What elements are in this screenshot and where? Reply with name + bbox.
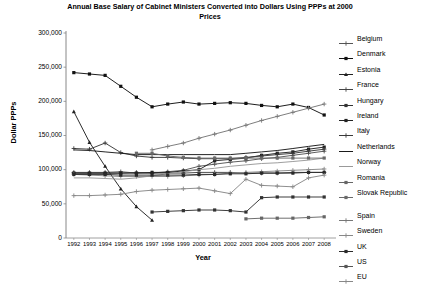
square-marker-icon	[338, 112, 354, 123]
legend-label: EU	[357, 272, 367, 281]
legend-label: Hungary	[357, 96, 383, 105]
legend-item-denmark[interactable]: Denmark	[338, 49, 446, 64]
chart-legend: BelgiumDenmarkEstoniaFranceHungaryIrelan…	[338, 34, 446, 288]
plus-marker-icon	[338, 273, 354, 284]
series-denmark	[72, 71, 326, 117]
legend-item-estonia[interactable]: Estonia	[338, 65, 446, 80]
legend-item-france[interactable]: France	[338, 80, 446, 95]
legend-label: Spain	[357, 211, 375, 220]
legend-item-hungary[interactable]: Hungary	[338, 96, 446, 111]
legend-label: Romania	[357, 173, 385, 182]
square-marker-icon	[338, 258, 354, 269]
triangle-marker-icon	[338, 66, 354, 77]
legend-label: Denmark	[357, 49, 385, 58]
legend-label: Slovak Republic	[357, 188, 415, 197]
legend-item-uk[interactable]: UK	[338, 242, 446, 257]
legend-item-belgium[interactable]: Belgium	[338, 34, 446, 49]
legend-label: France	[357, 80, 379, 89]
legend-label: Belgium	[357, 34, 382, 43]
legend-item-netherlands[interactable]: Netherlands	[338, 142, 446, 157]
legend-item-ireland[interactable]: Ireland	[338, 111, 446, 126]
series-romania	[244, 215, 325, 220]
line-marker-icon	[338, 158, 354, 169]
legend-label: US	[357, 257, 367, 266]
legend-label: Estonia	[357, 65, 380, 74]
square-marker-icon	[338, 97, 354, 108]
series-estonia	[72, 109, 154, 221]
square-marker-icon	[338, 189, 354, 200]
legend-item-norway[interactable]: Norway	[338, 157, 446, 172]
plus-marker-icon	[338, 227, 354, 238]
legend-label: UK	[357, 242, 367, 251]
series-netherlands	[74, 144, 324, 154]
plus-marker-icon	[338, 212, 354, 223]
legend-item-sweden[interactable]: Sweden	[338, 226, 446, 241]
series-hungary	[150, 195, 325, 213]
legend-item-eu[interactable]: EU	[338, 272, 446, 287]
legend-item-slovak-republic[interactable]: Slovak Republic	[338, 188, 446, 211]
plus-marker-icon	[338, 81, 354, 92]
legend-item-romania[interactable]: Romania	[338, 173, 446, 188]
legend-label: Sweden	[357, 226, 382, 235]
legend-label: Norway	[357, 157, 381, 166]
legend-label: Netherlands	[357, 142, 395, 151]
legend-label: Italy	[357, 126, 370, 135]
legend-label: Ireland	[357, 111, 378, 120]
legend-item-spain[interactable]: Spain	[338, 211, 446, 226]
legend-item-us[interactable]: US	[338, 257, 446, 272]
plus-marker-icon	[338, 127, 354, 138]
square-marker-icon	[338, 174, 354, 185]
square-marker-icon	[338, 243, 354, 254]
plot-area: Dollar PPPs 050,000100,000150,000200,000…	[0, 0, 340, 281]
plus-marker-icon	[338, 35, 354, 46]
line-marker-icon	[338, 143, 354, 154]
legend-item-italy[interactable]: Italy	[338, 126, 446, 141]
series-spain	[150, 102, 327, 152]
square-marker-icon	[338, 50, 354, 61]
